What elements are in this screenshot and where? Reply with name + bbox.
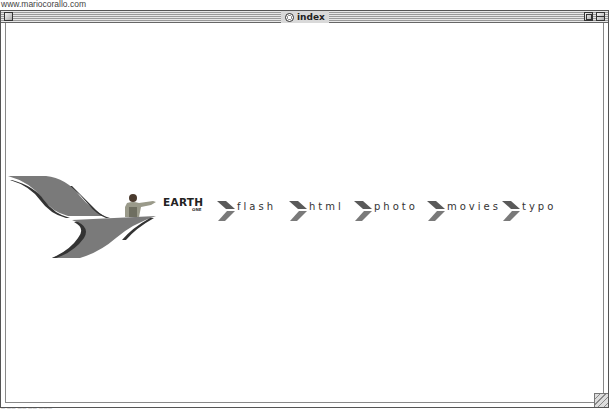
collapse-button[interactable]: [596, 12, 605, 21]
browser-url: www.mariocorallo.com: [1, 0, 86, 9]
status-bar: — —— —— —— ———: [1, 405, 52, 410]
nav-label: movies: [447, 201, 501, 212]
resize-grip[interactable]: [594, 393, 608, 407]
brand-subtitle: ONE: [192, 207, 201, 212]
chevron-icon: [502, 200, 524, 222]
globe-icon: [285, 13, 294, 22]
chevron-icon: [217, 200, 239, 222]
window-title: index: [281, 11, 329, 23]
chevron-icon: [354, 200, 376, 222]
nav-label: flash: [237, 201, 276, 212]
zoom-button[interactable]: [584, 12, 593, 21]
window-title-text: index: [297, 12, 325, 22]
chevron-icon: [289, 200, 311, 222]
chevron-icon: [427, 200, 449, 222]
person-pointing-image: [121, 193, 157, 219]
nav-label: typo: [522, 201, 556, 212]
nav-label: html: [309, 201, 344, 212]
close-button[interactable]: [4, 12, 13, 21]
title-bar[interactable]: index: [1, 11, 608, 23]
nav-label: photo: [374, 201, 418, 212]
